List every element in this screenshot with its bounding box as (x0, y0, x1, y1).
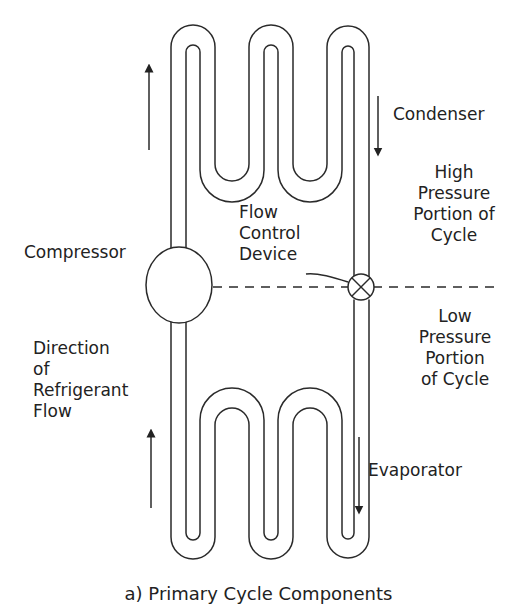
high-pressure-line-4: Cycle (394, 225, 514, 246)
low-pressure-line-4: of Cycle (400, 369, 510, 390)
low-pressure-label: Low Pressure Portion of Cycle (400, 306, 510, 390)
low-pressure-line-1: Low (400, 306, 510, 327)
high-pressure-line-3: Portion of (394, 204, 514, 225)
compressor-symbol (146, 247, 212, 323)
flow-control-label: Flow Control Device (239, 202, 300, 265)
flow-control-valve-icon (348, 274, 374, 300)
evaporator-label: Evaporator (368, 460, 462, 481)
flow-control-leader (306, 274, 348, 282)
high-pressure-line-1: High (394, 162, 514, 183)
figure-caption: a) Primary Cycle Components (0, 583, 517, 604)
flow-control-line-2: Control (239, 223, 300, 244)
high-pressure-line-2: Pressure (394, 183, 514, 204)
low-pressure-line-2: Pressure (400, 327, 510, 348)
condenser-label: Condenser (393, 104, 484, 125)
compressor-label: Compressor (24, 242, 126, 263)
flow-direction-line-4: Flow (33, 401, 128, 422)
high-pressure-label: High Pressure Portion of Cycle (394, 162, 514, 246)
flow-control-line-3: Device (239, 244, 300, 265)
low-pressure-line-3: Portion (400, 348, 510, 369)
flow-direction-label: Direction of Refrigerant Flow (33, 338, 128, 422)
flow-direction-line-2: of (33, 359, 128, 380)
flow-control-line-1: Flow (239, 202, 300, 223)
flow-direction-line-3: Refrigerant (33, 380, 128, 401)
flow-direction-line-1: Direction (33, 338, 128, 359)
